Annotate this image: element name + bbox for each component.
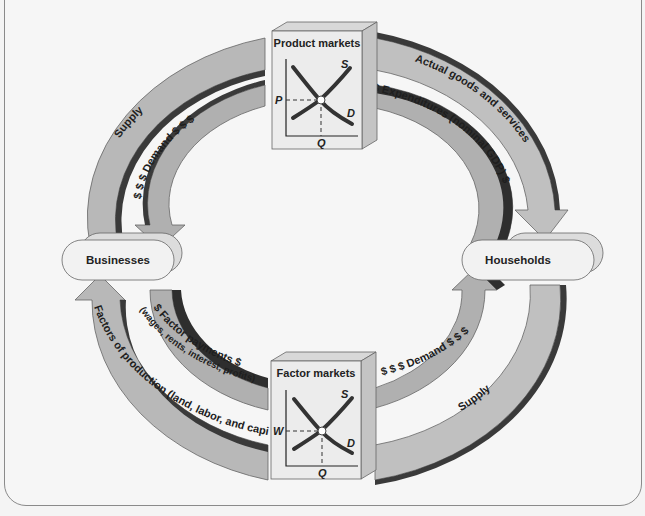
- factor-markets-box: Factor markets S D W Q: [271, 352, 376, 479]
- households-label: Households: [485, 254, 551, 266]
- factor-demand-label: D: [347, 437, 355, 449]
- factor-wage-label: W: [273, 425, 285, 437]
- product-markets-title: Product markets: [274, 37, 361, 49]
- node-businesses: Businesses: [62, 233, 182, 280]
- product-equilibrium-point: [317, 96, 325, 104]
- factor-equilibrium-point: [318, 427, 326, 435]
- circular-flow-diagram: Supply $ $ $ Demand $ $ $ Actual goods a…: [0, 0, 645, 516]
- product-quantity-label: Q: [317, 137, 326, 149]
- product-markets-box: Product markets S D P Q: [272, 22, 377, 149]
- factor-markets-title: Factor markets: [277, 367, 356, 379]
- node-households: Households: [462, 233, 603, 280]
- factor-supply-label: S: [341, 388, 349, 400]
- product-demand-label: D: [347, 107, 355, 119]
- businesses-label: Businesses: [86, 254, 150, 266]
- factor-quantity-label: Q: [318, 467, 327, 479]
- product-price-label: P: [275, 94, 283, 106]
- product-supply-label: S: [341, 58, 349, 70]
